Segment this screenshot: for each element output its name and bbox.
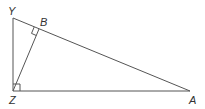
right-angle-marker-b — [32, 27, 37, 36]
segment-zb — [13, 29, 39, 91]
segment-ya — [13, 18, 190, 91]
label-z: Z — [8, 94, 17, 106]
triangle-diagram: Y B Z A — [0, 0, 205, 109]
label-a: A — [188, 94, 196, 106]
label-b: B — [40, 16, 47, 28]
label-y: Y — [8, 5, 16, 17]
